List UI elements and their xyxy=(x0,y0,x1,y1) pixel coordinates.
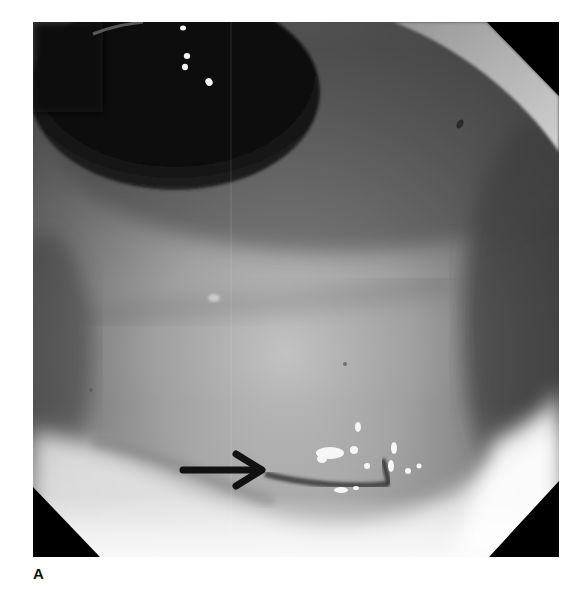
endoscopic-image xyxy=(33,22,559,557)
figure: A xyxy=(0,0,585,591)
panel-label: A xyxy=(33,566,44,581)
